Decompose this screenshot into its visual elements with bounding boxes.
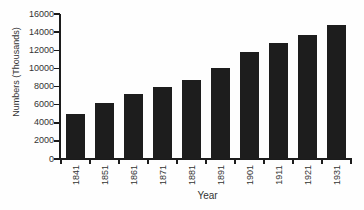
x-axis-label: 1931	[331, 155, 343, 195]
y-axis-tick-label: 14000	[22, 27, 54, 38]
bar-1891	[211, 68, 230, 159]
bar-1911	[269, 43, 288, 159]
bar-1921	[298, 35, 317, 159]
x-axis-tick	[321, 160, 323, 164]
y-axis-tick	[54, 140, 60, 142]
y-axis-tick-label: 6000	[22, 99, 54, 110]
x-axis-label: 1921	[302, 155, 314, 195]
y-axis-tick-label: 8000	[22, 81, 54, 92]
x-axis-tick	[147, 160, 149, 164]
x-axis-tick	[60, 160, 62, 164]
x-axis-label: 1851	[99, 155, 111, 195]
y-axis-tick	[54, 86, 60, 88]
x-axis-label: 1891	[215, 155, 227, 195]
bar-1871	[153, 87, 172, 159]
y-axis-tick	[54, 31, 60, 33]
x-axis-tick	[205, 160, 207, 164]
bar-1881	[182, 80, 201, 159]
y-axis-title: Numbers (Thousands)	[10, 17, 22, 127]
x-axis-label: 1861	[128, 155, 140, 195]
bar-1931	[327, 25, 346, 159]
x-axis-tick	[263, 160, 265, 164]
x-axis-tick	[89, 160, 91, 164]
y-axis-tick	[54, 13, 60, 15]
y-axis-tick-label: 12000	[22, 45, 54, 56]
x-axis-tick	[118, 160, 120, 164]
x-axis-tick	[234, 160, 236, 164]
x-axis-label: 1901	[244, 155, 256, 195]
y-axis-tick	[54, 50, 60, 52]
y-axis-tick-label: 16000	[22, 9, 54, 20]
bar-1851	[95, 103, 114, 159]
x-axis-label: 1871	[157, 155, 169, 195]
y-axis-tick-label: 4000	[22, 117, 54, 128]
x-axis-tick	[292, 160, 294, 164]
x-axis-tick	[176, 160, 178, 164]
y-axis-tick-label: 2000	[22, 135, 54, 146]
bar-1901	[240, 52, 259, 159]
y-axis-tick	[54, 104, 60, 106]
bar-1861	[124, 94, 143, 159]
x-axis-label: 1841	[70, 155, 82, 195]
bar-chart: Numbers (Thousands) Year 020004000600080…	[0, 0, 364, 210]
x-axis-label: 1911	[273, 155, 285, 195]
y-axis-tick	[54, 122, 60, 124]
x-axis-tick	[350, 160, 352, 164]
y-axis-tick	[54, 68, 60, 70]
y-axis-tick-label: 0	[22, 154, 54, 165]
bar-1841	[66, 114, 85, 159]
y-axis-tick-label: 10000	[22, 63, 54, 74]
x-axis-label: 1881	[186, 155, 198, 195]
